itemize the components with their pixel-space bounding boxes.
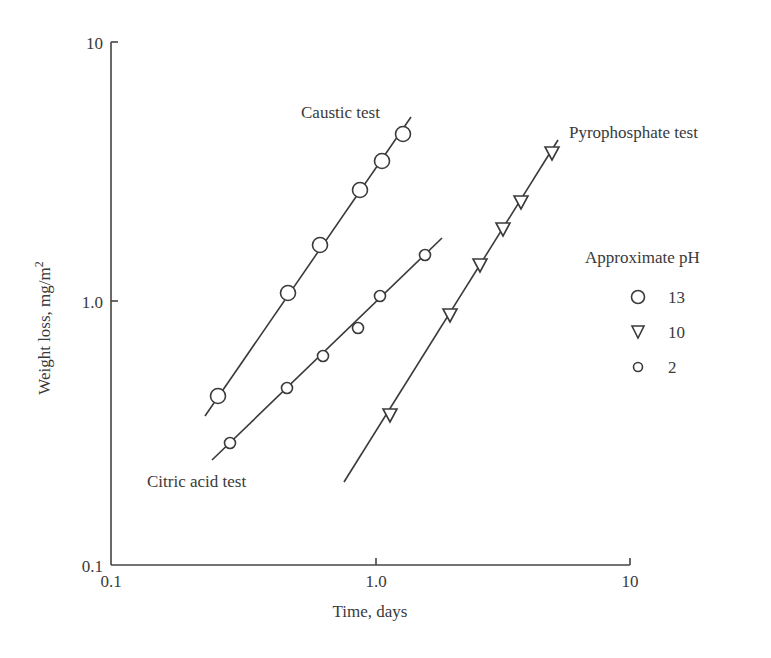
- data-point: [375, 291, 386, 302]
- y-axis-title: Weight loss, mg/m2: [32, 261, 54, 395]
- data-point: [396, 127, 411, 142]
- data-point: [375, 154, 390, 169]
- data-point: [353, 323, 364, 334]
- legend-down-triangle-icon: [632, 326, 644, 338]
- data-point: [496, 223, 510, 236]
- data-point: [473, 259, 487, 272]
- citric-fit-line: [212, 238, 442, 460]
- x-tick-label-0-1: 0.1: [100, 572, 121, 591]
- data-point: [318, 351, 329, 362]
- legend-large-circle-icon: [632, 291, 645, 304]
- legend: Approximate pH 13 10 2: [585, 248, 700, 377]
- pyro-markers: [383, 147, 559, 422]
- y-tick-label-1: 1.0: [82, 293, 103, 312]
- legend-label-13: 13: [668, 288, 685, 307]
- y-tick-label-10: 10: [86, 34, 103, 53]
- caustic-annotation: Caustic test: [301, 103, 380, 122]
- caustic-markers: [211, 127, 411, 404]
- data-point: [225, 438, 236, 449]
- y-axis-title-sup: 2: [32, 261, 46, 267]
- legend-title: Approximate pH: [585, 248, 700, 267]
- legend-label-10: 10: [668, 323, 685, 342]
- legend-label-2: 2: [668, 358, 677, 377]
- data-point: [211, 389, 226, 404]
- data-point: [313, 238, 328, 253]
- chart: 10 1.0 0.1 0.1 1.0 10 Time, days Weight …: [0, 0, 771, 658]
- data-point: [282, 383, 293, 394]
- x-axis-title: Time, days: [333, 602, 408, 621]
- x-tick-label-10: 10: [622, 572, 639, 591]
- legend-small-circle-icon: [634, 363, 643, 372]
- data-point: [353, 183, 368, 198]
- x-tick-label-1: 1.0: [365, 572, 386, 591]
- y-axis-title-main: Weight loss, mg/m: [35, 267, 54, 395]
- pyro-annotation: Pyrophosphate test: [569, 123, 698, 142]
- data-point: [420, 250, 431, 261]
- data-point: [281, 286, 296, 301]
- citric-annotation: Citric acid test: [147, 472, 246, 491]
